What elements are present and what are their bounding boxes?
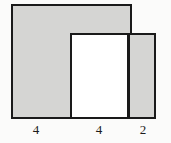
middle-white-rectangle: [70, 33, 129, 119]
right-gray-rectangle: [128, 33, 156, 119]
figure-canvas: 4 4 2: [0, 0, 171, 143]
dimension-label-center: 4: [84, 122, 114, 138]
dimension-label-right: 2: [128, 122, 158, 138]
dimension-label-left: 4: [21, 122, 51, 138]
